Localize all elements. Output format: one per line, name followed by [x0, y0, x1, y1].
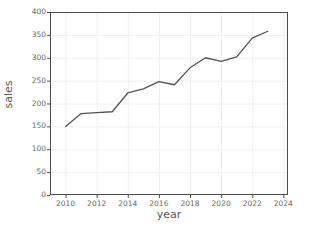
x-tick-label: 2024 — [263, 200, 303, 208]
x-axis-label: year — [50, 208, 288, 221]
line-chart-figure: 050100150200250300350400 201020122014201… — [0, 0, 309, 232]
y-axis-label: sales — [2, 65, 15, 125]
x-axis-tick-labels: 20102012201420162018202020222024 — [0, 0, 309, 232]
